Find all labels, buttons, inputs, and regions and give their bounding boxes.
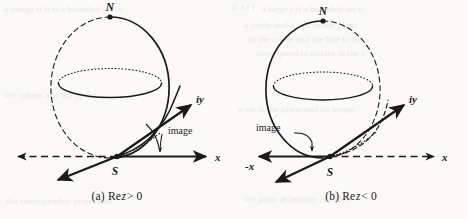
panel-a-caption: (a) Rez> 0 [0, 190, 234, 202]
label-real-axis-negative: -x [245, 160, 255, 172]
label-real-axis: x [441, 151, 448, 163]
label-north-pole: N [318, 5, 328, 17]
label-south-pole: S [327, 166, 333, 178]
sphere-left-meridian-dashed [51, 17, 110, 158]
label-imaginary-axis: iy [409, 93, 417, 105]
axis-iy-positive-solid [330, 105, 404, 157]
south-pole-point [114, 154, 119, 159]
caption-relation: < 0 [361, 190, 377, 202]
sphere-equator-back-dotted [58, 69, 161, 83]
image-leader-arrow [160, 134, 162, 152]
label-north-pole: N [105, 1, 115, 13]
image-leader-curve [294, 133, 312, 142]
label-imaginary-axis: iy [196, 93, 204, 105]
sphere-right-meridian-solid [110, 17, 169, 158]
north-pole-point [320, 18, 325, 23]
sphere-equator-back-dotted [273, 72, 372, 86]
label-image-annotation: image [256, 122, 281, 133]
figure-root: a image if it is a bounded set of if a t… [0, 0, 468, 219]
panel-b-caption: (b) Rez< 0 [234, 190, 468, 202]
panel-b-diagram: N S iy x -x image [234, 0, 468, 219]
caption-operator: Re [342, 190, 355, 202]
panel-a: N S iy x image (a) Rez> 0 [0, 0, 234, 219]
south-pole-point [327, 154, 332, 159]
caption-index: (b) [325, 190, 339, 202]
caption-relation: > 0 [127, 190, 143, 202]
caption-operator: Re [108, 190, 121, 202]
label-real-axis: x [214, 151, 221, 163]
panel-b: N S iy x -x image (b) Rez< 0 [234, 0, 468, 219]
label-image-annotation: image [168, 125, 193, 136]
axis-iy-negative-solid [58, 157, 117, 181]
image-curve-dashed [330, 100, 388, 157]
sphere-equator-front-solid [273, 86, 372, 100]
sphere-equator-front-solid [58, 83, 161, 97]
north-pole-point [107, 14, 112, 19]
label-south-pole: S [112, 165, 118, 177]
axis-iy-negative-solid [276, 157, 330, 183]
panel-a-diagram: N S iy x image [0, 0, 234, 219]
caption-index: (a) [91, 190, 104, 202]
